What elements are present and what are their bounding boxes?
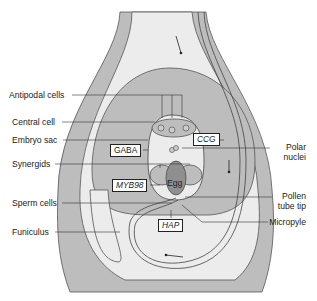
box-myb98: MYB98 <box>112 179 147 192</box>
label-polar-nuclei: Polar nuclei <box>272 142 306 162</box>
label-antipodal-cells: Antipodal cells <box>9 90 64 100</box>
label-sperm-cells: Sperm cells <box>12 198 57 208</box>
label-pollen-tube-tip: Pollen tube tip <box>262 191 306 211</box>
label-funiculus: Funiculus <box>12 227 49 237</box>
box-hap: HAP <box>158 219 183 232</box>
box-ccg: CCG <box>193 133 220 146</box>
box-gaba: GABA <box>110 144 141 157</box>
ovule-diagram <box>0 0 317 301</box>
label-egg: Egg <box>167 178 182 188</box>
label-synergids: Synergids <box>12 159 50 169</box>
label-central-cell: Central cell <box>12 117 55 127</box>
label-embryo-sac: Embryo sac <box>12 135 57 145</box>
label-micropyle: Micropyle <box>262 217 306 227</box>
